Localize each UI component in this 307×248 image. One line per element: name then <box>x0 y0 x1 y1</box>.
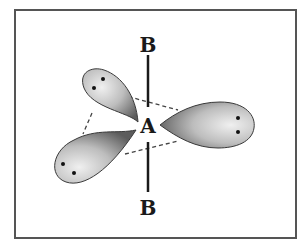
electron-icon <box>72 171 76 175</box>
atom-label-central-a: A <box>139 114 156 138</box>
electron-icon <box>236 130 240 134</box>
atom-label-bottom-b: B <box>140 196 157 220</box>
molecule-diagram: B A B <box>0 0 307 248</box>
atom-label-top-b: B <box>140 33 157 57</box>
electron-icon <box>236 116 240 120</box>
electron-icon <box>101 77 105 81</box>
electron-icon <box>61 162 65 166</box>
electron-icon <box>92 86 96 90</box>
